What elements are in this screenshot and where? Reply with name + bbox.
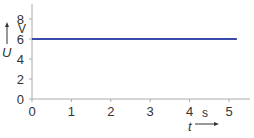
x-label: t <box>188 119 193 134</box>
y-label: U <box>2 45 12 60</box>
y-unit: V <box>18 22 26 36</box>
x-tick-label: 0 <box>28 104 35 119</box>
x-tick-label: 4 <box>186 104 193 119</box>
chart-svg: 02468 012345 V U s t <box>0 0 254 138</box>
x-tick-label: 3 <box>147 104 154 119</box>
voltage-time-chart: 02468 012345 V U s t <box>0 0 254 138</box>
y-arrow-head-icon <box>5 22 9 27</box>
x-tick-label: 5 <box>225 104 232 119</box>
x-unit: s <box>202 106 208 120</box>
x-tick-label: 1 <box>68 104 75 119</box>
y-tick-label: 2 <box>17 72 24 87</box>
y-tick-label: 4 <box>17 52 24 67</box>
x-arrow-head-icon <box>214 122 219 126</box>
y-tick-label: 0 <box>17 92 24 107</box>
x-tick-label: 2 <box>107 104 114 119</box>
